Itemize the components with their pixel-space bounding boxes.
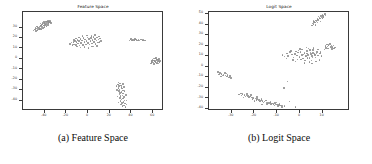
data-point	[125, 106, 127, 108]
data-point	[293, 57, 295, 59]
data-point	[80, 42, 82, 44]
data-point	[47, 24, 49, 26]
data-point	[35, 27, 37, 29]
data-point	[300, 59, 302, 61]
data-point	[309, 57, 311, 59]
data-point	[117, 96, 119, 98]
data-point	[256, 96, 258, 98]
data-point	[227, 74, 229, 76]
y-axis-tick-label: -30	[3, 87, 17, 91]
data-point	[320, 51, 322, 53]
y-axis-tick	[205, 13, 208, 14]
data-point	[306, 53, 308, 55]
data-point	[312, 52, 314, 54]
data-point	[246, 93, 248, 95]
data-point	[130, 38, 132, 40]
data-point	[259, 101, 261, 103]
data-point	[311, 25, 313, 27]
data-point	[311, 60, 313, 62]
x-axis-tick-label: -10	[269, 114, 283, 118]
data-point	[315, 57, 317, 59]
data-point	[312, 49, 314, 51]
data-point	[266, 103, 268, 105]
y-axis-tick-label: 20	[3, 35, 17, 39]
y-axis-tick-label: -40	[3, 98, 17, 102]
data-point	[263, 102, 265, 104]
data-point	[325, 15, 327, 17]
data-point	[309, 61, 311, 63]
data-point	[40, 25, 42, 27]
data-point	[300, 51, 302, 53]
data-point	[296, 55, 298, 57]
data-point	[270, 104, 272, 106]
data-point	[297, 59, 299, 61]
y-axis-tick-label: 10	[3, 46, 17, 50]
data-point	[238, 94, 240, 96]
data-point	[218, 74, 220, 76]
caption-figure-a: (a) Feature Space	[0, 131, 186, 144]
data-point	[327, 48, 329, 50]
plot-feature-space: Feature Space -40-30-20-100102030-40-200…	[0, 0, 186, 126]
data-point	[261, 104, 263, 106]
data-point	[126, 104, 128, 106]
data-point	[287, 55, 289, 57]
data-point	[286, 58, 288, 60]
data-point	[88, 47, 90, 49]
data-point	[99, 38, 101, 40]
data-point	[274, 105, 276, 107]
data-point	[281, 106, 283, 108]
data-point	[73, 39, 75, 41]
y-axis-tick-label: 0	[189, 64, 203, 68]
y-axis-tick	[205, 66, 208, 67]
data-point	[299, 56, 301, 58]
data-point	[150, 63, 152, 65]
data-point	[283, 87, 285, 89]
y-axis-tick	[205, 97, 208, 98]
y-axis-tick	[205, 24, 208, 25]
data-point	[295, 61, 297, 63]
data-point	[319, 53, 321, 55]
data-point	[134, 38, 136, 40]
y-axis-tick-label: -30	[189, 96, 203, 100]
data-point	[325, 45, 327, 47]
y-axis-tick-label: 50	[189, 11, 203, 15]
data-point	[307, 54, 309, 56]
data-point	[289, 101, 291, 103]
y-axis-tick	[19, 100, 22, 101]
y-axis-tick-label: -10	[189, 74, 203, 78]
x-axis-tick-label: -40	[37, 114, 51, 118]
data-point	[309, 49, 311, 51]
data-point	[317, 49, 319, 51]
data-point	[299, 48, 301, 50]
data-point	[69, 43, 71, 45]
data-point	[315, 24, 317, 26]
data-point	[250, 94, 252, 96]
data-point	[123, 86, 125, 88]
data-point	[277, 105, 279, 107]
data-point	[291, 54, 293, 56]
data-point	[314, 54, 316, 56]
data-point	[153, 63, 155, 65]
data-point	[125, 94, 127, 96]
data-point	[158, 58, 160, 60]
data-point	[317, 55, 319, 57]
y-axis-tick-label: 0	[3, 56, 17, 60]
data-point	[326, 44, 328, 46]
data-point	[100, 40, 102, 42]
y-axis-tick	[205, 34, 208, 35]
data-point	[284, 56, 286, 58]
data-point	[76, 46, 78, 48]
y-axis-tick	[19, 47, 22, 48]
data-point	[33, 30, 35, 32]
y-axis-tick-label: 40	[189, 22, 203, 26]
data-point	[319, 17, 321, 19]
data-point	[261, 98, 263, 100]
figure-panel-b: Logit Space -40-30-20-1001020304050-30-2…	[186, 0, 372, 164]
figure-container: Feature Space -40-30-20-100102030-40-200…	[0, 0, 372, 164]
figure-panel-a: Feature Space -40-30-20-100102030-40-200…	[0, 0, 186, 164]
x-axis-tick-label: -20	[58, 114, 72, 118]
y-axis-tick-label: 10	[189, 53, 203, 57]
x-axis-tick-label: 60	[145, 114, 159, 118]
y-axis-tick-label: 30	[189, 32, 203, 36]
data-point	[85, 44, 87, 46]
